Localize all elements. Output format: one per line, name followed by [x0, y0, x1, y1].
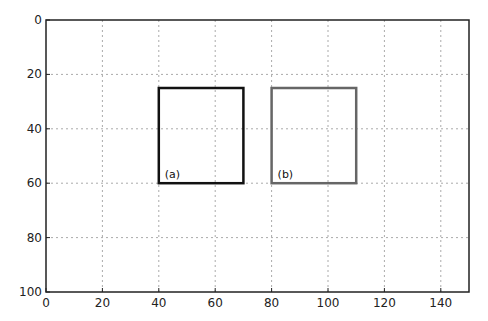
y-tick-label: 80: [27, 231, 42, 245]
y-tick-label: 60: [27, 176, 42, 190]
x-tick-label: 60: [208, 296, 223, 310]
grid-lines: [46, 20, 469, 292]
x-tick-label: 40: [151, 296, 166, 310]
chart: (a)(b) 020406080100120140 020406080100: [0, 0, 488, 321]
x-tick-label: 20: [95, 296, 110, 310]
y-tick-label: 40: [27, 122, 42, 136]
x-tick-label: 140: [429, 296, 452, 310]
y-tick-label: 100: [19, 285, 42, 299]
x-tick-label: 0: [42, 296, 50, 310]
rectangle-label: (a): [165, 168, 180, 181]
rectangles: (a)(b): [159, 88, 356, 183]
y-tick-label: 0: [34, 13, 42, 27]
x-tick-label: 80: [264, 296, 279, 310]
x-tick-label: 120: [373, 296, 396, 310]
rectangle-label: (b): [278, 168, 294, 181]
x-tick-label: 100: [317, 296, 340, 310]
plot-frame: [46, 20, 469, 292]
y-tick-label: 20: [27, 67, 42, 81]
